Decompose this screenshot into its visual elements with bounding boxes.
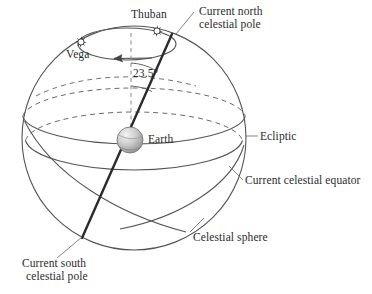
label-south-celestial-pole-line2: celestial pole: [26, 270, 88, 283]
label-celestial-equator: Current celestial equator: [245, 174, 361, 187]
label-north-celestial-pole-line1: Current north: [199, 5, 263, 18]
south-pole-leader-line: [57, 237, 82, 258]
north-pole-leader-line: [176, 12, 194, 34]
label-thuban: Thuban: [131, 8, 167, 21]
thuban-star-icon: [151, 25, 163, 37]
ecliptic-back-dashed: [23, 88, 246, 116]
label-celestial-sphere: Celestial sphere: [193, 231, 268, 244]
equator-tilt-arc-back: [36, 77, 196, 96]
celestial-sphere-diagram: Thuban Vega Current north celestial pole…: [0, 0, 372, 294]
label-south-celestial-pole-line1: Current south: [22, 257, 86, 270]
celestial-sphere-leader-line: [190, 218, 204, 232]
label-vega: Vega: [66, 48, 89, 61]
label-ecliptic: Ecliptic: [260, 130, 297, 143]
precession-circle: [78, 28, 176, 60]
diagram-canvas: [0, 0, 372, 294]
earth-globe-icon: [117, 127, 143, 153]
label-earth: Earth: [148, 133, 173, 146]
label-tilt-angle: 23.5°: [133, 67, 158, 80]
label-north-celestial-pole-line2: celestial pole: [199, 18, 261, 31]
